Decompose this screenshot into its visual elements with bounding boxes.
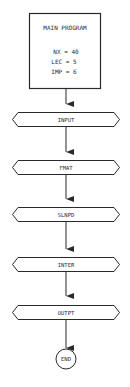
process-step-outpt: OUTPT [13,306,120,320]
process-step-fmat: FMAT [13,161,120,175]
step-label: OUTPT [58,310,75,316]
process-step-inter: INTER [13,258,120,272]
process-step-input: INPUT [13,113,120,127]
step-label: INPUT [58,117,75,123]
process-step-slnpd: SLNPD [13,208,120,222]
step-label: FMAT [59,165,73,171]
main-program-box: MAIN PROGRAM NX = 40 LEC = 5 IMP = 6 [30,14,101,89]
main-program-line-nx: NX = 40 [53,48,79,55]
step-label: INTER [58,262,75,268]
end-terminator: END [56,349,76,369]
step-label: SLNPD [58,212,75,218]
main-program-line-imp: IMP = 6 [51,68,77,75]
flowchart: MAIN PROGRAM NX = 40 LEC = 5 IMP = 6 INP… [0,0,130,387]
main-program-line-lec: LEC = 5 [51,58,77,65]
terminator-label: END [61,356,71,362]
main-program-title: MAIN PROGRAM [43,24,87,31]
